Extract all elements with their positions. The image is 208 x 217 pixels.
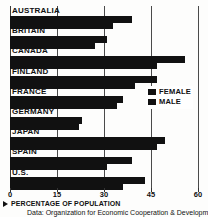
x-tick-label-60: 60 <box>194 191 202 199</box>
category-label: BRITAIN <box>12 26 45 35</box>
x-tick-label-30: 30 <box>100 191 108 199</box>
x-tick-label-45: 45 <box>147 191 155 199</box>
category-label: JAPAN <box>12 127 40 136</box>
x-tick-label-15: 15 <box>53 191 61 199</box>
category-label: SPAIN <box>12 147 37 156</box>
gridline-60 <box>198 6 199 188</box>
category-label: CANADA <box>12 46 48 55</box>
source-note: Data: Organization for Economic Cooperat… <box>27 209 208 217</box>
bar-chart-figure: AUSTRALIABRITAINCANADAFINLANDFRANCEGERMA… <box>0 0 208 217</box>
bar-group: SPAIN <box>10 147 198 167</box>
bar-group: FINLAND <box>10 67 198 87</box>
bar-female <box>10 96 123 103</box>
bar-female <box>10 157 132 164</box>
category-label: FINLAND <box>12 67 49 76</box>
category-label: FRANCE <box>12 87 47 96</box>
x-axis-caption: PERCENTAGE OF POPULATION <box>3 200 120 208</box>
bar-group: JAPAN <box>10 127 198 147</box>
legend-label-female: FEMALE <box>159 88 191 96</box>
category-label: AUSTRALIA <box>12 6 60 15</box>
bar-group: BRITAIN <box>10 26 198 46</box>
x-axis-caption-text: PERCENTAGE OF POPULATION <box>11 200 120 208</box>
x-axis-tick-labels: 015304560 <box>0 191 208 200</box>
bar-female <box>10 76 157 83</box>
legend-swatch-male-icon <box>148 99 156 105</box>
legend-item-male: MALE <box>148 97 191 106</box>
category-label: U.S. <box>12 168 28 177</box>
bar-group: AUSTRALIA <box>10 6 198 26</box>
bar-female <box>10 177 145 184</box>
x-tick-label-0: 0 <box>8 191 12 199</box>
category-label: GERMANY <box>12 107 54 116</box>
legend-swatch-female-icon <box>148 89 156 95</box>
bar-female <box>10 36 107 43</box>
bar-group: U.S. <box>10 168 198 188</box>
bar-group: GERMANY <box>10 107 198 127</box>
bar-group: CANADA <box>10 46 198 66</box>
bar-female <box>10 16 132 23</box>
chart-legend: FEMALE MALE <box>146 86 193 109</box>
triangle-right-icon <box>3 201 8 207</box>
legend-item-female: FEMALE <box>148 87 191 96</box>
bar-female <box>10 137 165 144</box>
bar-female <box>10 56 185 63</box>
bar-female <box>10 117 82 124</box>
legend-label-male: MALE <box>159 98 181 106</box>
